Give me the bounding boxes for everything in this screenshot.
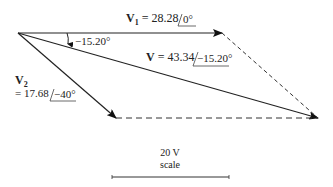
dashed-side-top-right (222, 33, 318, 118)
v-angle-label: −15.20° (197, 52, 232, 64)
angle-marker-label: −15.20° (75, 35, 110, 47)
v1-angle-label: 0° (183, 13, 193, 25)
v1-label: V1 = 28.28 (126, 11, 178, 27)
angle-arc-icon (67, 33, 68, 44)
v-resultant-arrow (18, 33, 318, 118)
scale-value: 20 V (160, 147, 180, 158)
v2-angle-label: −40° (54, 88, 76, 100)
scale-label: scale (160, 159, 181, 170)
v2-magnitude: = 17.68 (15, 87, 49, 99)
phasor-diagram: −15.20° V1 = 28.28 0° V = 43.34 −15.20° … (0, 0, 333, 187)
v-label: V = 43.34 (146, 50, 194, 64)
